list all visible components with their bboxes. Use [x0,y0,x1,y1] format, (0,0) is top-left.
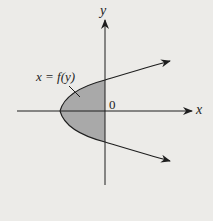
curve-label: x = f(y) [36,70,75,83]
origin-label: 0 [109,98,116,111]
x-axis-label: x [196,103,202,117]
y-axis-label: y [100,4,106,18]
diagram-canvas: y x 0 x = f(y) [0,0,213,221]
graph-svg [0,0,213,221]
